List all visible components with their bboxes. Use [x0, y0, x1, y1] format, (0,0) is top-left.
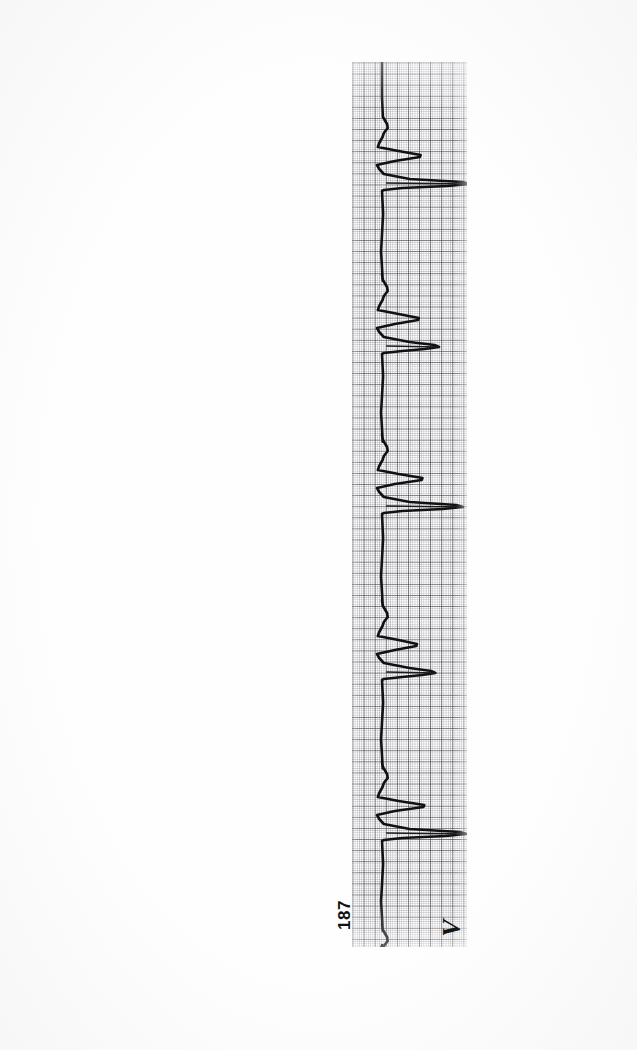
page-number: 187: [330, 888, 360, 942]
ecg-strip: [352, 62, 467, 947]
scanned-page: 187 V: [0, 0, 637, 1050]
ecg-waveform-trace: [352, 62, 467, 947]
lead-annotation-v: V: [430, 908, 474, 948]
